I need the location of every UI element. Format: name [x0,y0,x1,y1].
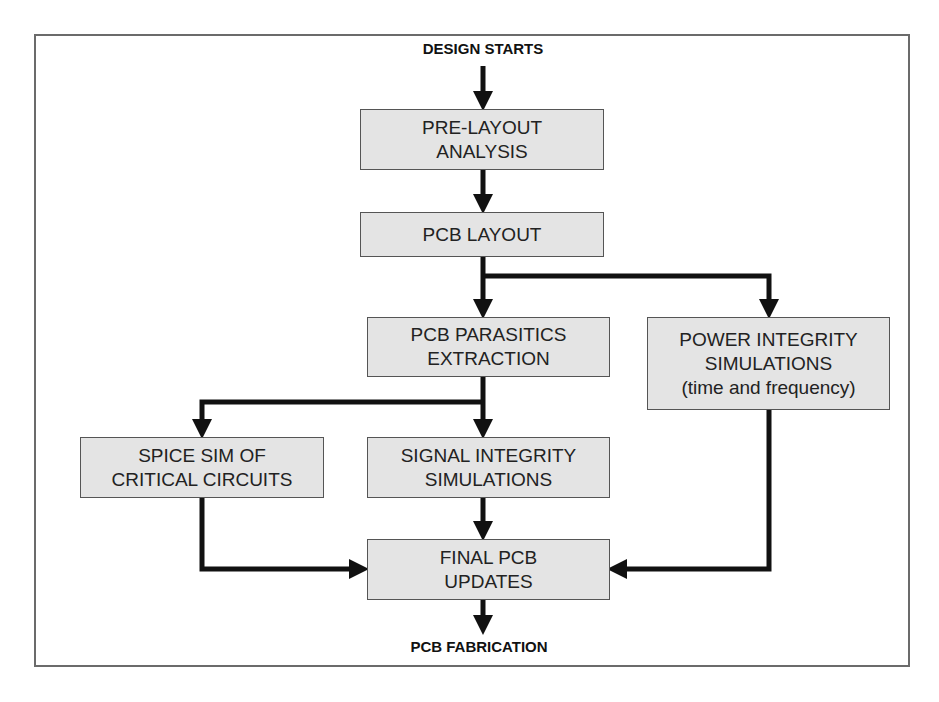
start-label: DESIGN STARTS [383,40,583,57]
node-label: SPICE SIM OF [138,444,266,468]
node-signal-integrity-simulations: SIGNAL INTEGRITY SIMULATIONS [367,437,610,498]
node-label: EXTRACTION [427,347,549,371]
node-final-pcb-updates: FINAL PCB UPDATES [367,539,610,600]
node-label: ANALYSIS [436,140,528,164]
node-label: (time and frequency) [681,376,855,400]
node-power-integrity-simulations: POWER INTEGRITY SIMULATIONS (time and fr… [647,317,890,410]
end-label: PCB FABRICATION [369,638,589,655]
end-terminal: PCB FABRICATION [369,638,589,655]
node-label: CRITICAL CIRCUITS [112,468,293,492]
node-spice-sim-critical-circuits: SPICE SIM OF CRITICAL CIRCUITS [80,437,324,498]
node-label: SIGNAL INTEGRITY [401,444,577,468]
node-label: FINAL PCB [440,546,538,570]
start-terminal: DESIGN STARTS [383,40,583,57]
node-label: UPDATES [444,570,532,594]
node-label: PCB LAYOUT [423,223,542,247]
node-label: SIMULATIONS [425,468,552,492]
node-label: PRE-LAYOUT [422,116,542,140]
node-label: POWER INTEGRITY [679,328,857,352]
node-pcb-layout: PCB LAYOUT [360,212,604,257]
node-label: SIMULATIONS [705,352,832,376]
node-pcb-parasitics-extraction: PCB PARASITICS EXTRACTION [367,317,610,377]
node-label: PCB PARASITICS [411,323,567,347]
node-pre-layout-analysis: PRE-LAYOUT ANALYSIS [360,109,604,170]
